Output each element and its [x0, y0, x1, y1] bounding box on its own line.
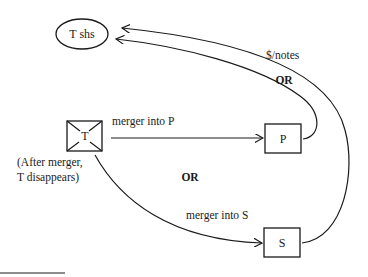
subsidiary-label: S	[279, 236, 286, 250]
or-top-label: OR	[275, 74, 293, 86]
parent-label: P	[280, 132, 287, 146]
after-merger-note-line1: (After merger,	[17, 156, 83, 169]
target-label: T	[81, 129, 89, 143]
merger-into-p-label: merger into P	[112, 115, 174, 128]
consideration-label: $/notes	[266, 49, 300, 61]
parent-node: P	[265, 124, 301, 153]
merger-into-s-arrow	[95, 155, 262, 243]
subsidiary-node: S	[264, 228, 300, 257]
target-node: T	[67, 121, 102, 151]
t-shareholders-node: T shs	[56, 19, 108, 49]
merger-into-s-label: merger into S	[186, 209, 248, 222]
merger-diagram: T shs T P S merger into P merger into S …	[0, 0, 368, 277]
t-shareholders-label: T shs	[69, 27, 95, 41]
or-middle-label: OR	[181, 171, 199, 183]
after-merger-note-line2: T disappears)	[17, 171, 79, 184]
